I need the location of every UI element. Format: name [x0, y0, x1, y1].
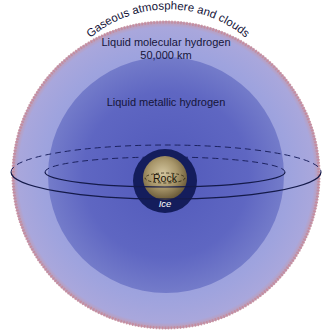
diagram-canvas: Gaseous atmosphere and clouds Liquid mol… [0, 0, 331, 336]
ice-label: Ice [159, 198, 172, 209]
rock-label: Rock [153, 172, 178, 184]
depth-label: 50,000 km [140, 49, 191, 61]
planet-interior-diagram: Gaseous atmosphere and clouds Liquid mol… [0, 0, 331, 336]
metallic-hydrogen-label: Liquid metallic hydrogen [107, 96, 226, 108]
molecular-hydrogen-label: Liquid molecular hydrogen [101, 36, 230, 48]
